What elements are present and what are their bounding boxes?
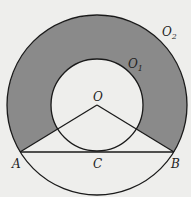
geometry-figure: O A B C O2 O1 (0, 0, 191, 197)
label-o: O (93, 90, 103, 104)
label-o2: O2 (162, 25, 177, 41)
label-a: A (11, 157, 21, 171)
label-b: B (170, 157, 180, 171)
label-c: C (93, 157, 102, 171)
